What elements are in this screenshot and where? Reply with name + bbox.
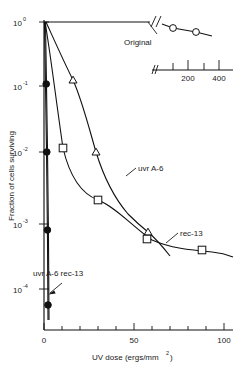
y-tick-label-4: 10 -4	[13, 283, 28, 295]
data-point-uvra6	[69, 76, 77, 83]
series-original: Original	[44, 16, 212, 47]
y-tick-exponent: -1	[23, 80, 28, 86]
data-point-uvra6-rec13	[45, 302, 52, 309]
data-point-uvra6-rec13	[43, 81, 50, 88]
data-point-original	[170, 25, 177, 32]
y-axis-title: Fraction of cells surviving	[7, 131, 16, 221]
inset-tick-label-400: 400	[212, 74, 226, 83]
data-point-uvra6-rec13	[44, 149, 51, 156]
y-tick-mantissa: 10	[13, 19, 22, 28]
y-tick-mantissa: 10	[13, 286, 22, 295]
x-axis-ticks	[44, 323, 224, 330]
x-axis-title: UV dose (ergs/mm 2 )	[92, 350, 173, 362]
x-tick-label-100: 100	[217, 336, 231, 345]
x-axis-title-exponent: 2	[166, 350, 169, 356]
y-tick-label-0: 10 0	[13, 16, 26, 28]
y-tick-exponent: 0	[23, 16, 26, 22]
y-tick-mantissa: 10	[13, 221, 22, 230]
inset-tick-label-200: 200	[181, 74, 195, 83]
y-tick-label-1: 10 -1	[13, 80, 28, 92]
x-axis-title-suffix: )	[170, 353, 173, 362]
y-tick-exponent: -4	[23, 283, 28, 289]
y-tick-mantissa: 10	[13, 83, 22, 92]
series-label-uvr-a6-rec13: uvr A-6 rec-13	[33, 269, 84, 278]
x-tick-label-0: 0	[42, 336, 47, 345]
x-axis-title-text: UV dose (ergs/mm	[92, 353, 159, 362]
data-point-uvra6	[92, 148, 100, 155]
data-point-rec13	[143, 235, 151, 243]
data-point-rec13	[94, 196, 102, 204]
data-point-rec13	[198, 246, 206, 254]
axis-break-mark	[151, 16, 161, 27]
y-tick-exponent: -3	[23, 218, 28, 224]
data-point-uvra6-rec13	[44, 227, 51, 234]
data-point-original	[193, 29, 200, 36]
series-label-uvr-a6: uvr A-6	[138, 164, 164, 173]
series-uvr-a6: uvr A-6	[46, 22, 170, 256]
plot-canvas: 10 0 10 -1 10 -2 10 -3 10 -4 0 50 100 UV…	[0, 0, 241, 374]
y-tick-exponent: -2	[23, 146, 28, 152]
survival-curve-figure: 10 0 10 -1 10 -2 10 -3 10 -4 0 50 100 UV…	[0, 0, 241, 374]
series-rec13: rec-13	[45, 22, 233, 257]
data-point-rec13	[59, 144, 67, 152]
series-uvr-a6-rec13: uvr A-6 rec-13	[33, 22, 84, 320]
series-label-rec13: rec-13	[180, 229, 203, 238]
inset-dose-axis: 200 400	[152, 60, 233, 83]
x-tick-label-50: 50	[130, 336, 139, 345]
series-label-original: Original	[124, 38, 152, 47]
